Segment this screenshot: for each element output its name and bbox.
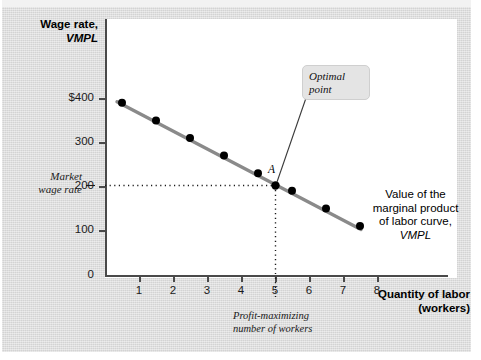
profit-max-line1: Profit-maximizing [233, 310, 309, 321]
data-point-0 [118, 99, 126, 107]
figure-container: Wage rate, VMPL Quantity of labor (worke… [0, 0, 481, 360]
data-point-2 [186, 134, 194, 142]
optimal-callout-line1: Optimal [309, 70, 345, 82]
profit-max-line2: number of workers [233, 323, 312, 334]
vmpl-caption-line3: of labor curve, [379, 215, 452, 227]
data-point-7 [356, 222, 364, 230]
chart-svg [0, 0, 481, 360]
vmpl-curve-caption: Value of the marginal product of labor c… [368, 188, 463, 242]
optimal-point-leader-line [277, 98, 306, 182]
vmpl-caption-line4: VMPL [400, 229, 431, 241]
data-point-A-optimal [271, 181, 279, 189]
optimal-point-callout: Optimal point [302, 65, 370, 100]
data-point-6 [322, 204, 330, 212]
data-point-5 [288, 187, 296, 195]
data-point-3 [220, 152, 228, 160]
point-a-label: A [268, 163, 275, 175]
data-point-1 [152, 116, 160, 124]
profit-max-workers-label: Profit-maximizing number of workers [233, 310, 348, 335]
data-point-4 [254, 169, 262, 177]
vmpl-caption-line2: marginal product [373, 202, 459, 214]
optimal-callout-line2: point [309, 83, 332, 95]
vmpl-caption-line1: Value of the [385, 188, 446, 200]
